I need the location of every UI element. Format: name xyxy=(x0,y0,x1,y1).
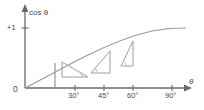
x-tick-label-90: 90° xyxy=(165,92,176,100)
angle-triangle-60 xyxy=(121,41,133,66)
x-tick-label-30: 30° xyxy=(68,92,79,100)
cos-theta-curve xyxy=(25,28,186,88)
x-tick-label-45: 45° xyxy=(98,92,109,100)
angle-triangle-45 xyxy=(91,51,110,73)
y-tick-label-plus-one: +1 xyxy=(7,24,16,32)
y-axis-label: cos θ xyxy=(29,9,48,17)
cosine-graph-figure: cos θ θ +1 0 30° 45° 60° 90° xyxy=(0,0,204,110)
angle-triangle-30 xyxy=(62,62,88,77)
y-axis-arrow-icon xyxy=(22,4,29,12)
x-tick-label-60: 60° xyxy=(127,92,138,100)
x-axis-label: θ xyxy=(189,78,193,86)
origin-label: 0 xyxy=(13,85,18,94)
